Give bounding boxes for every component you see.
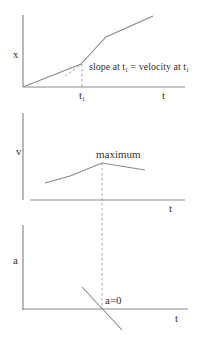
slope-annotation-part2: = velocity at t: [128, 61, 186, 72]
position-plot: x t t1 slope at t1 = velocity at t1: [13, 15, 189, 102]
position-curve: [23, 16, 153, 87]
velocity-plot: v t maximum: [16, 113, 185, 214]
acceleration-x-label: t: [175, 312, 178, 324]
kinematics-diagram: x t t1 slope at t1 = velocity at t1 v t …: [0, 0, 206, 341]
zero-acceleration-annotation: a=0: [105, 294, 122, 306]
maximum-annotation: maximum: [96, 148, 141, 160]
acceleration-plot: a t a=0: [13, 225, 188, 330]
velocity-x-label: t: [169, 202, 172, 214]
slope-annotation: slope at t1 = velocity at t1: [89, 61, 189, 73]
slope-annotation-part1: slope at t: [89, 61, 125, 72]
slope-annotation-sub2: 1: [186, 67, 189, 73]
velocity-y-label: v: [16, 145, 22, 157]
tangent-line: [65, 64, 82, 76]
velocity-curve: [45, 163, 145, 183]
t1-tick-label-sub: 1: [82, 96, 85, 102]
acceleration-y-label: a: [13, 254, 18, 266]
position-y-label: x: [13, 48, 19, 60]
position-x-label: t: [162, 89, 165, 101]
t1-tick-label: t1: [79, 89, 85, 102]
